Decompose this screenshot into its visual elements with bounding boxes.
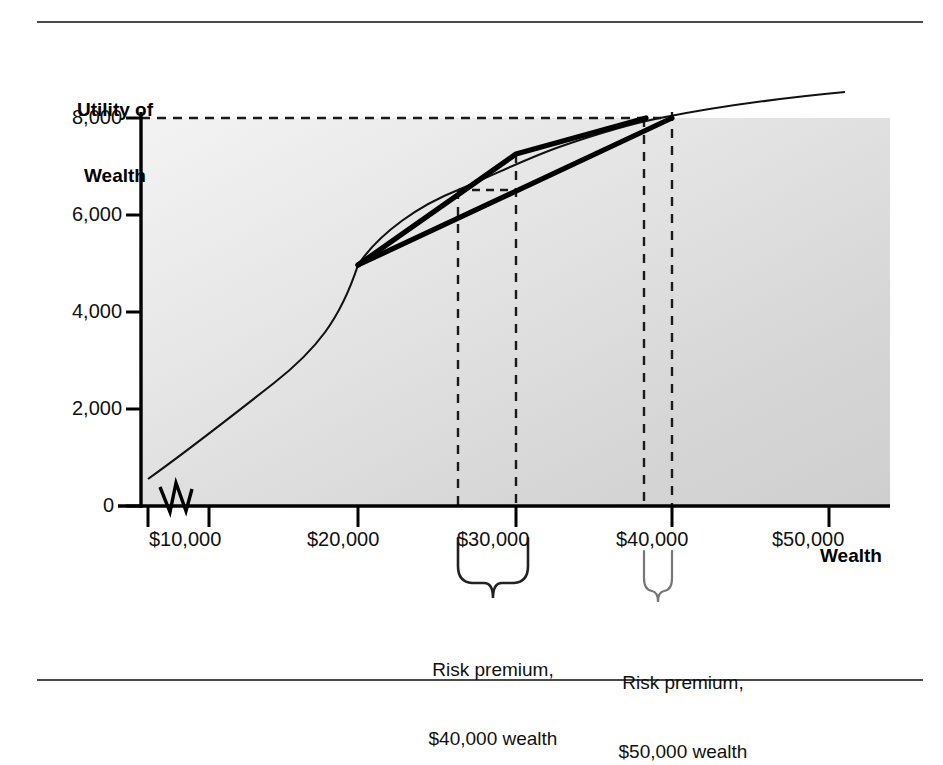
y-tick-label-4000: 4,000 — [72, 300, 122, 323]
x-tick-label-30000: $30,000 — [457, 528, 529, 551]
x-axis-title: Wealth — [820, 545, 882, 567]
risk-premium-40k-annotation: Risk premium, $40,000 wealth — [398, 612, 588, 765]
x-axis-ticks — [148, 506, 829, 527]
risk-premium-50k-brace — [644, 551, 672, 602]
risk-premium-50k-line2: $50,000 wealth — [588, 740, 778, 763]
y-axis-title: Utility of Wealth — [60, 55, 170, 231]
risk-premium-50k-annotation: Risk premium, $50,000 wealth — [588, 625, 778, 765]
y-axis-title-line2: Wealth — [60, 165, 170, 187]
x-tick-label-40000: $40,000 — [616, 528, 688, 551]
x-tick-label-10000: $10,000 — [149, 528, 221, 551]
y-tick-label-2000: 2,000 — [72, 397, 122, 420]
risk-premium-40k-line1: Risk premium, — [398, 658, 588, 681]
x-tick-label-20000: $20,000 — [307, 528, 379, 551]
y-axis-title-line1: Utility of — [60, 99, 170, 121]
risk-premium-40k-line2: $40,000 wealth — [398, 727, 588, 750]
y-tick-label-0: 0 — [103, 494, 114, 517]
risk-premium-50k-line1: Risk premium, — [588, 671, 778, 694]
